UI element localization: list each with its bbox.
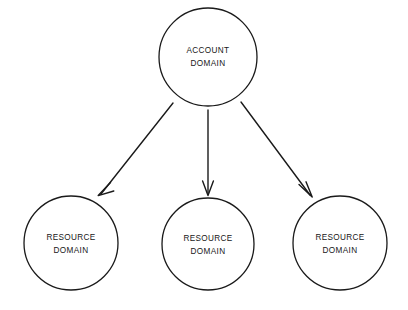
resource-domain-left-label-line1: RESOURCE xyxy=(46,233,95,242)
resource-domain-middle-label-line1: RESOURCE xyxy=(183,234,232,243)
node-resource-domain-left[interactable]: RESOURCE DOMAIN xyxy=(24,196,118,290)
account-domain-label-line1: ACCOUNT xyxy=(187,46,230,55)
resource-domain-left-label-line2: DOMAIN xyxy=(54,246,89,255)
edge-account-to-right xyxy=(241,102,312,197)
edge-group xyxy=(98,102,312,197)
node-resource-domain-middle[interactable]: RESOURCE DOMAIN xyxy=(162,198,254,290)
node-account-domain[interactable]: ACCOUNT DOMAIN xyxy=(159,8,257,106)
node-group: ACCOUNT DOMAIN RESOURCE DOMAIN RESOURCE … xyxy=(24,8,387,290)
resource-domain-right-label-line2: DOMAIN xyxy=(323,246,358,255)
resource-domain-left-circle[interactable] xyxy=(24,196,118,290)
resource-domain-middle-label-line2: DOMAIN xyxy=(191,247,226,256)
account-domain-label-line2: DOMAIN xyxy=(191,59,226,68)
arrowhead-icon xyxy=(98,183,114,196)
node-resource-domain-right[interactable]: RESOURCE DOMAIN xyxy=(293,196,387,290)
resource-domain-middle-circle[interactable] xyxy=(162,198,254,290)
domain-trust-diagram: ACCOUNT DOMAIN RESOURCE DOMAIN RESOURCE … xyxy=(0,0,408,310)
resource-domain-right-label-line1: RESOURCE xyxy=(315,233,364,242)
edge-account-to-left xyxy=(98,103,173,196)
resource-domain-right-circle[interactable] xyxy=(293,196,387,290)
account-domain-circle[interactable] xyxy=(159,8,257,106)
edge-line xyxy=(101,103,173,194)
edge-account-to-middle xyxy=(203,110,214,196)
edge-line xyxy=(241,102,310,195)
diagram-canvas: ACCOUNT DOMAIN RESOURCE DOMAIN RESOURCE … xyxy=(0,0,408,310)
